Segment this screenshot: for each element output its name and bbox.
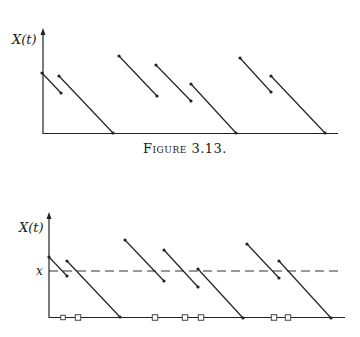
open-square-marker	[271, 315, 277, 321]
segment	[279, 261, 331, 318]
segment	[67, 261, 120, 317]
endpoint-dot	[123, 238, 126, 241]
bottom-ylabel: X(t)	[18, 220, 44, 235]
endpoint-dot	[277, 259, 280, 262]
endpoint-dot	[269, 74, 272, 77]
open-square-marker	[198, 315, 204, 321]
top-ylabel: X(t)	[11, 32, 37, 47]
segment	[125, 240, 164, 281]
endpoint-dot	[59, 91, 62, 94]
endpoint-dot	[189, 82, 192, 85]
segment	[49, 257, 67, 276]
threshold-label: x	[36, 264, 43, 278]
top-y-axis-arrow-icon	[41, 28, 46, 35]
bottom-y-axis-arrow-icon	[47, 212, 52, 219]
bottom-chart: X(t) x	[18, 212, 345, 320]
endpoint-dot	[65, 259, 68, 262]
open-square-marker	[61, 315, 66, 320]
endpoint-dot	[47, 255, 50, 258]
endpoint-dot	[118, 315, 121, 318]
endpoint-dot	[189, 99, 192, 102]
endpoint-dot	[234, 131, 237, 134]
top-segments	[40, 54, 326, 134]
open-square-marker	[182, 315, 188, 321]
endpoint-dot	[269, 90, 272, 93]
endpoint-dot	[162, 279, 165, 282]
endpoint-dot	[245, 242, 248, 245]
top-chart: X(t)	[11, 28, 338, 135]
figure-canvas: X(t) X(t) x	[0, 0, 360, 337]
endpoint-dot	[323, 131, 326, 134]
segment	[271, 76, 325, 133]
segment	[119, 56, 157, 96]
endpoint-dot	[162, 248, 165, 251]
figure-caption: Figure 3.13.	[0, 141, 360, 156]
endpoint-dot	[196, 267, 199, 270]
endpoint-dot	[241, 316, 244, 319]
segment	[156, 65, 191, 101]
segment	[247, 244, 279, 278]
endpoint-dot	[196, 285, 199, 288]
endpoint-dot	[111, 131, 114, 134]
endpoint-dot	[155, 94, 158, 97]
endpoint-dot	[154, 63, 157, 66]
endpoint-dot	[40, 71, 43, 74]
open-square-marker	[75, 315, 81, 321]
segment	[191, 84, 236, 133]
endpoint-dot	[117, 54, 120, 57]
endpoint-dot	[57, 74, 60, 77]
bottom-segments	[47, 238, 332, 319]
endpoint-dot	[277, 276, 280, 279]
endpoint-dot	[329, 316, 332, 319]
segment	[198, 269, 243, 318]
segment	[164, 250, 198, 287]
endpoint-dot	[65, 274, 68, 277]
endpoint-dot	[238, 56, 241, 59]
segment	[59, 76, 113, 133]
segment	[240, 58, 271, 92]
open-square-marker	[152, 315, 158, 321]
open-square-marker	[285, 315, 291, 321]
